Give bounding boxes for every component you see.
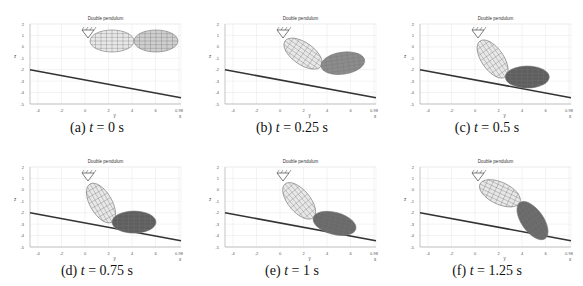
svg-text:4: 4: [326, 251, 329, 256]
caption-time-var: t: [474, 120, 478, 135]
caption-time-var: t: [276, 120, 280, 135]
svg-text:0.98: 0.98: [565, 251, 574, 256]
svg-text:1: 1: [217, 33, 220, 38]
svg-text:-1: -1: [215, 56, 219, 61]
svg-text:2: 2: [217, 165, 220, 170]
caption-time-var: t: [470, 263, 474, 278]
svg-text:4: 4: [521, 108, 524, 113]
svg-text:-1: -1: [20, 199, 24, 204]
subfigure-a: Double pendulum210-1-2-3-4-5-4-202460.98…: [0, 0, 194, 143]
svg-text:2: 2: [302, 108, 305, 113]
svg-text:0: 0: [217, 44, 220, 49]
plot-title: Double pendulum: [478, 16, 514, 21]
svg-text:-2: -2: [20, 67, 24, 72]
svg-text:-5: -5: [410, 245, 414, 250]
svg-text:0: 0: [84, 108, 87, 113]
svg-text:0: 0: [474, 108, 477, 113]
svg-text:-2: -2: [60, 251, 64, 256]
subfigure-caption: (c) t = 0.5 s: [390, 120, 583, 136]
caption-equals: =: [97, 120, 105, 135]
svg-text:6: 6: [544, 108, 547, 113]
svg-text:2: 2: [412, 22, 415, 27]
svg-text:2: 2: [107, 108, 110, 113]
subfigure-b: Double pendulum210-1-2-3-4-5-4-202460.98…: [195, 0, 389, 143]
svg-text:0.98: 0.98: [175, 251, 184, 256]
svg-text:x: x: [374, 114, 377, 119]
svg-text:-5: -5: [20, 245, 24, 250]
svg-text:0.98: 0.98: [175, 108, 184, 113]
svg-text:y: y: [504, 113, 507, 118]
caption-label: (f): [452, 263, 466, 278]
plot-title: Double pendulum: [283, 16, 319, 21]
caption-label: (a): [70, 120, 86, 135]
svg-text:1: 1: [22, 33, 25, 38]
svg-text:z: z: [209, 197, 212, 202]
svg-text:0: 0: [474, 251, 477, 256]
svg-text:-4: -4: [20, 233, 24, 238]
svg-text:0: 0: [22, 187, 25, 192]
svg-text:2: 2: [22, 22, 25, 27]
svg-text:-4: -4: [36, 108, 40, 113]
svg-text:-4: -4: [36, 251, 40, 256]
svg-text:-5: -5: [215, 102, 219, 107]
svg-text:z: z: [14, 197, 17, 202]
svg-text:-2: -2: [410, 210, 414, 215]
caption-time-value: 1 s: [303, 263, 319, 278]
caption-label: (c): [455, 120, 471, 135]
svg-text:-5: -5: [20, 102, 24, 107]
svg-text:-1: -1: [410, 56, 414, 61]
pendulum-plot: Double pendulum210-1-2-3-4-5-4-202460.98…: [0, 143, 194, 263]
subfigure-caption: (e) t = 1 s: [195, 263, 389, 279]
svg-text:1: 1: [412, 33, 415, 38]
svg-text:-2: -2: [255, 108, 259, 113]
pendulum-plot: Double pendulum210-1-2-3-4-5-4-202460.98…: [0, 0, 194, 120]
svg-text:-3: -3: [215, 79, 219, 84]
svg-text:y: y: [114, 256, 117, 261]
svg-text:0: 0: [279, 108, 282, 113]
svg-text:4: 4: [326, 108, 329, 113]
caption-time-value: 0.5 s: [493, 120, 519, 135]
svg-text:-2: -2: [20, 210, 24, 215]
svg-text:x: x: [569, 114, 572, 119]
svg-text:-4: -4: [215, 233, 219, 238]
svg-text:-2: -2: [60, 108, 64, 113]
svg-text:0.98: 0.98: [370, 251, 379, 256]
svg-text:-3: -3: [410, 79, 414, 84]
svg-text:6: 6: [544, 251, 547, 256]
subfigure-caption: (b) t = 0.25 s: [195, 120, 389, 136]
svg-text:-2: -2: [255, 251, 259, 256]
svg-text:-4: -4: [215, 90, 219, 95]
svg-text:4: 4: [131, 251, 134, 256]
pendulum-plot: Double pendulum210-1-2-3-4-5-4-202460.98…: [195, 0, 389, 120]
svg-text:2: 2: [497, 108, 500, 113]
svg-text:0: 0: [279, 251, 282, 256]
caption-time-value: 0.25 s: [295, 120, 328, 135]
svg-text:x: x: [179, 114, 182, 119]
svg-text:4: 4: [521, 251, 524, 256]
plot-title: Double pendulum: [88, 16, 124, 21]
svg-text:-4: -4: [231, 251, 235, 256]
svg-text:y: y: [309, 256, 312, 261]
caption-time-var: t: [89, 120, 93, 135]
svg-text:-3: -3: [410, 222, 414, 227]
svg-text:-2: -2: [215, 67, 219, 72]
svg-text:0: 0: [22, 44, 25, 49]
svg-text:1: 1: [22, 176, 25, 181]
plot-title: Double pendulum: [283, 159, 319, 164]
pendulum-plot: Double pendulum210-1-2-3-4-5-4-202460.98…: [390, 143, 583, 263]
caption-equals: =: [283, 120, 291, 135]
svg-text:0.98: 0.98: [565, 108, 574, 113]
svg-text:z: z: [404, 54, 407, 59]
caption-label: (d): [61, 263, 77, 278]
svg-text:-3: -3: [215, 222, 219, 227]
svg-text:0: 0: [84, 251, 87, 256]
svg-text:2: 2: [497, 251, 500, 256]
svg-text:-3: -3: [20, 222, 24, 227]
caption-time-var: t: [81, 263, 85, 278]
plot-title: Double pendulum: [478, 159, 514, 164]
svg-text:-2: -2: [410, 67, 414, 72]
svg-text:2: 2: [22, 165, 25, 170]
subfigure-f: Double pendulum210-1-2-3-4-5-4-202460.98…: [390, 143, 583, 286]
svg-text:1: 1: [412, 176, 415, 181]
svg-text:2: 2: [412, 165, 415, 170]
